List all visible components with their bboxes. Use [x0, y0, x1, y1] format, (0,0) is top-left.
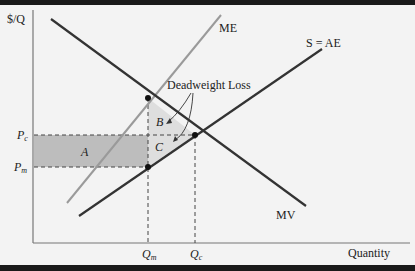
region-a-shading — [34, 135, 148, 167]
qc-tick-label: Qc — [190, 248, 202, 262]
y-axis-label: $/Q — [7, 13, 25, 25]
pc-sub: c — [24, 134, 28, 143]
deadweight-label: Deadweight Loss — [167, 79, 251, 91]
pm-sub: m — [21, 166, 27, 175]
y-axis-label-text: $/Q — [7, 12, 25, 26]
point-monopsony — [145, 164, 151, 170]
point-competitive — [192, 132, 198, 138]
region-a-label: A — [81, 146, 88, 158]
pm-tick-label: Pm — [14, 161, 27, 175]
me-label: ME — [219, 22, 237, 34]
chart-canvas — [0, 0, 415, 271]
mv-curve — [51, 19, 306, 206]
s-ae-label: S = AE — [306, 37, 341, 49]
bottom-border — [0, 265, 415, 271]
qc-sub: c — [199, 253, 203, 262]
x-axis-label: Quantity — [348, 247, 390, 259]
me-curve — [67, 15, 221, 203]
qm-tick-label: Qm — [142, 248, 156, 262]
region-b-label: B — [156, 116, 163, 128]
qm-main: Q — [142, 247, 151, 261]
qm-sub: m — [151, 253, 157, 262]
qc-main: Q — [190, 247, 199, 261]
pc-tick-label: Pc — [17, 129, 28, 143]
point-me-mv — [145, 95, 151, 101]
region-c-label: C — [155, 141, 163, 153]
mv-label: MV — [276, 209, 295, 221]
